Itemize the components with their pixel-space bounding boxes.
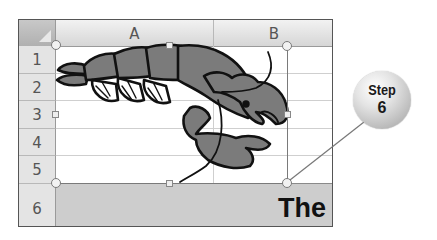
step-callout-badge: Step 6 <box>353 71 411 129</box>
step-number: 6 <box>353 99 411 116</box>
step-label: Step <box>357 82 406 98</box>
